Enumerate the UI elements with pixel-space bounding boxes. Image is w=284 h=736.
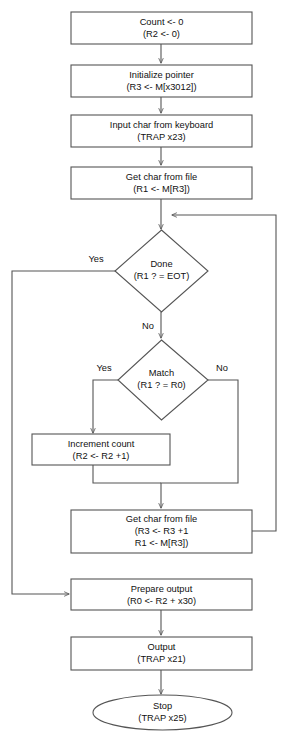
node-line-1: Output [148,642,176,652]
node-terminator-stop[interactable]: Stop (TRAP x25) [93,695,232,730]
node-line-2: (TRAP x25) [138,713,186,723]
node-line-2: (R2 <- R2 +1) [73,451,130,461]
node-process-prepare-output[interactable]: Prepare output (R0 <- R2 + x30) [71,579,252,610]
node-decision-done[interactable]: Done (R1 ? = EOT) [115,230,208,312]
edge-label-match-yes: Yes [96,363,112,373]
node-process-output[interactable]: Output (TRAP x21) [71,637,252,670]
node-line-2: (R2 <- 0) [143,29,180,39]
edge-increment-to-merge [93,465,161,483]
node-process-count-init[interactable]: Count <- 0 (R2 <- 0) [71,12,252,44]
node-line-2: (R1 ? = R0) [137,380,185,390]
node-process-get-char-from-file[interactable]: Get char from file (R1 <- M[R3]) [71,167,252,199]
node-line-1: Get char from file [126,172,197,182]
edge-match-yes-to-increment [93,380,118,433]
node-line-2: (R1 <- M[R3]) [133,184,190,194]
node-line-2: (R1 ? = EOT) [134,271,190,281]
edge-label-done-yes: Yes [88,254,104,264]
node-process-increment-count[interactable]: Increment count (R2 <- R2 +1) [32,434,170,465]
node-process-input-char[interactable]: Input char from keyboard (TRAP x23) [71,115,252,147]
node-line-2: (TRAP x23) [137,132,185,142]
node-line-1: Done [150,259,172,269]
node-line-1: Input char from keyboard [110,120,213,130]
flowchart-svg: Count <- 0 (R2 <- 0) Initialize pointer … [0,0,284,736]
node-decision-match[interactable]: Match (R1 ? = R0) [118,340,208,420]
node-line-2: (R0 <- R2 + x30) [127,596,196,606]
node-line-1: Get char from file [126,514,197,524]
node-line-2: (R3 <- M[x3012]) [126,82,196,92]
node-line-1: Match [149,368,174,378]
node-line-2: (R3 <- R3 +1 [135,526,189,536]
node-line-1: Initialize pointer [129,70,194,80]
node-line-1: Prepare output [131,584,193,594]
node-line-1: Increment count [68,439,135,449]
edge-label-done-no: No [142,321,154,331]
node-line-2: (TRAP x21) [137,654,185,664]
node-process-initialize-pointer[interactable]: Initialize pointer (R3 <- M[x3012]) [71,65,252,97]
node-line-3: R1 <- M[R3]) [135,538,188,548]
node-line-1: Stop [153,701,172,711]
edge-label-match-no: No [216,363,228,373]
node-line-1: Count <- 0 [140,17,184,27]
node-process-get-next-char-from-file[interactable]: Get char from file (R3 <- R3 +1 R1 <- M[… [71,510,252,553]
flowchart-canvas: Count <- 0 (R2 <- 0) Initialize pointer … [0,0,284,736]
